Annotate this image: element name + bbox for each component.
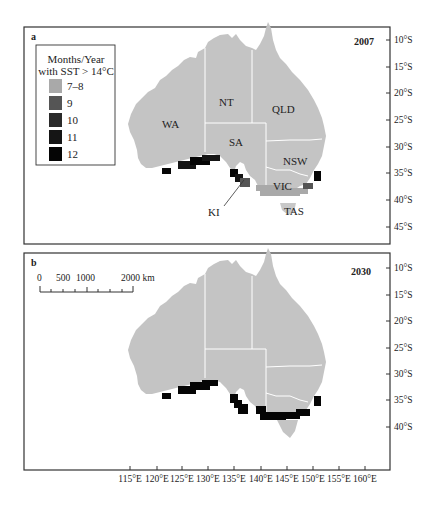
- legend-swatch-12: [49, 147, 62, 161]
- legend-swatch-11: [49, 130, 62, 144]
- label-tas: TAS: [284, 205, 304, 217]
- lat-tick-label: 30°S: [394, 369, 413, 379]
- lat-tick-label: 30°S: [394, 142, 413, 152]
- legend-label-10: 10: [67, 114, 79, 126]
- lat-tick-label: 45°S: [394, 222, 413, 232]
- lat-tick-label: 10°S: [394, 35, 413, 45]
- lat-tick-label: 35°S: [394, 395, 413, 405]
- tasmania: [277, 420, 298, 438]
- lon-axis: 115°E 120°E 125°E 130°E 135°E 140°E 145°…: [118, 466, 377, 484]
- label-ki: KI: [208, 206, 220, 218]
- scale-bar: 0 500 1000 2000 km: [37, 273, 155, 292]
- legend-swatch-7-8: [49, 79, 62, 93]
- lat-tick-label: 25°S: [394, 343, 413, 353]
- lat-tick-label: 20°S: [394, 316, 413, 326]
- label-nt: NT: [219, 96, 234, 108]
- panel-a: a 2007: [24, 22, 413, 244]
- panel-b-letter: b: [31, 257, 37, 268]
- lat-tick-label: 20°S: [394, 88, 413, 98]
- label-qld: QLD: [272, 103, 295, 115]
- lon-tick-label: 135°E: [222, 474, 246, 484]
- legend-title-line2: with SST > 14°C: [38, 65, 114, 77]
- scale-label-1000: 1000: [76, 273, 95, 283]
- lat-tick-label: 35°S: [394, 168, 413, 178]
- legend-label-12: 12: [67, 148, 78, 160]
- lat-tick-label: 40°S: [394, 195, 413, 205]
- lat-tick-label: 15°S: [394, 290, 413, 300]
- scale-label-500: 500: [56, 273, 71, 283]
- sst-map-figure: a 2007: [0, 0, 435, 505]
- legend-label-9: 9: [67, 97, 73, 109]
- lon-tick-label: 115°E: [118, 474, 142, 484]
- scale-label-2000km: 2000 km: [121, 273, 155, 283]
- lon-tick-label: 130°E: [196, 474, 220, 484]
- lon-tick-label: 155°E: [327, 474, 351, 484]
- panel-a-year: 2007: [354, 36, 374, 47]
- lon-tick-label: 120°E: [145, 474, 169, 484]
- label-nsw: NSW: [283, 155, 308, 167]
- lon-tick-label: 145°E: [275, 474, 299, 484]
- legend-label-11: 11: [67, 131, 78, 143]
- scale-label-0: 0: [37, 273, 42, 283]
- legend-label-7-8: 7–8: [67, 80, 84, 92]
- lat-tick-label: 10°S: [394, 263, 413, 273]
- lon-tick-label: 160°E: [353, 474, 377, 484]
- legend: Months/Year with SST > 14°C 7–8 9 10 11 …: [36, 45, 115, 165]
- lon-tick-label: 140°E: [249, 474, 273, 484]
- panel-b: b 2030 0 500 1000 2000 km: [24, 248, 413, 484]
- label-wa: WA: [162, 118, 179, 130]
- panel-b-year: 2030: [351, 266, 371, 277]
- australia-landmass: [128, 248, 326, 418]
- legend-swatch-9: [49, 96, 62, 110]
- lon-tick-label: 150°E: [301, 474, 325, 484]
- lat-tick-label: 15°S: [394, 62, 413, 72]
- legend-swatch-10: [49, 113, 62, 127]
- lat-tick-label: 25°S: [394, 115, 413, 125]
- label-sa: SA: [229, 136, 243, 148]
- label-vic: VIC: [273, 180, 292, 192]
- lon-tick-label: 125°E: [170, 474, 194, 484]
- panel-a-letter: a: [31, 31, 36, 42]
- legend-title-line1: Months/Year: [48, 53, 105, 65]
- lat-tick-label: 40°S: [394, 422, 413, 432]
- ki-pointer-line: [224, 180, 244, 206]
